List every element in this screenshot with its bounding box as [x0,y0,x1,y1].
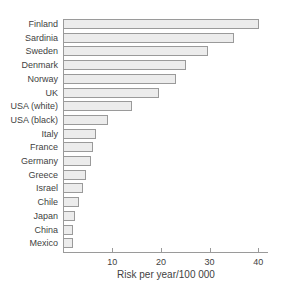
category-label: Denmark [0,60,58,70]
bar [63,211,75,221]
x-axis-line [63,252,268,253]
bar [63,88,159,98]
x-tick-mark [161,248,162,252]
category-label: Finland [0,19,58,29]
bar [63,46,208,56]
category-label: Mexico [0,238,58,248]
category-label: Norway [0,74,58,84]
x-tick-label: 10 [107,257,117,267]
bar [63,238,73,248]
bar [63,170,86,180]
y-axis-line [63,19,64,253]
category-label: Sweden [0,46,58,56]
x-tick-mark [112,248,113,252]
bar [63,115,108,125]
x-tick-label: 40 [253,257,263,267]
bar-chart: FinlandSardiniaSwedenDenmarkNorwayUKUSA … [0,0,287,289]
bar [63,225,73,235]
category-label: Sardinia [0,33,58,43]
category-label: France [0,142,58,152]
bar [63,33,234,43]
bar [63,183,83,193]
x-tick-label: 30 [205,257,215,267]
x-tick-mark [210,248,211,252]
bar [63,129,96,139]
category-label: Germany [0,156,58,166]
category-label: USA (white) [0,101,58,111]
category-label: Greece [0,170,58,180]
bar [63,19,259,29]
x-axis-label: Risk per year/100 000 [64,269,268,280]
category-label: Italy [0,129,58,139]
x-tick-label: 20 [156,257,166,267]
bar [63,142,93,152]
bar [63,101,132,111]
category-label: Israel [0,183,58,193]
bar [63,60,186,70]
bar [63,156,91,166]
bar [63,197,79,207]
category-label: USA (black) [0,115,58,125]
bar [63,74,176,84]
category-label: Chile [0,197,58,207]
x-tick-mark [258,248,259,252]
category-label: Japan [0,211,58,221]
category-label: UK [0,88,58,98]
category-label: China [0,225,58,235]
